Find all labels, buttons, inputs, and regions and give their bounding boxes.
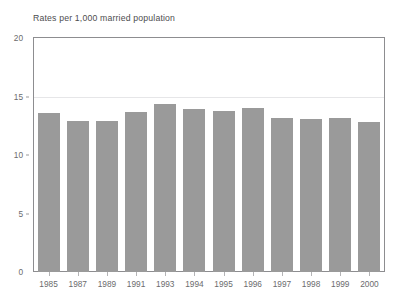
x-tick-label: 1998 (302, 279, 320, 289)
x-tick-label: 1994 (185, 279, 203, 289)
y-tick-mark (26, 155, 29, 156)
y-tick-label: 0 (18, 267, 23, 277)
x-tick-mark (78, 272, 79, 276)
y-tick-mark (26, 213, 29, 214)
bar-1994 (183, 109, 205, 272)
x-tick-mark (107, 272, 108, 276)
x-axis-ticks (34, 272, 384, 277)
x-tick-mark (49, 272, 50, 276)
y-axis: 05101520 (0, 37, 30, 272)
bars-layer (34, 38, 384, 272)
bar-1985 (38, 113, 60, 272)
bar-1987 (67, 121, 89, 272)
x-tick-label: 1989 (98, 279, 116, 289)
y-tick-label: 10 (14, 150, 23, 160)
x-tick-label: 1999 (331, 279, 349, 289)
x-tick-mark (253, 272, 254, 276)
x-tick-label: 1997 (273, 279, 291, 289)
x-tick-label: 2000 (360, 279, 378, 289)
x-tick-label: 1993 (156, 279, 174, 289)
x-tick-mark (165, 272, 166, 276)
x-tick-mark (369, 272, 370, 276)
bar-2000 (358, 122, 380, 272)
x-tick-mark (340, 272, 341, 276)
bar-1996 (242, 108, 264, 272)
x-tick-label: 1985 (39, 279, 57, 289)
x-tick-mark (136, 272, 137, 276)
x-tick-label: 1995 (214, 279, 232, 289)
x-tick-mark (311, 272, 312, 276)
x-tick-mark (224, 272, 225, 276)
chart-figure: Rates per 1,000 married population 05101… (0, 0, 398, 307)
chart-title: Rates per 1,000 married population (33, 13, 175, 23)
x-tick-label: 1987 (69, 279, 87, 289)
y-tick-label: 20 (14, 33, 23, 43)
top-crop-artifact (60, 0, 290, 6)
bar-1999 (329, 118, 351, 272)
bar-1989 (96, 121, 118, 272)
x-axis: 1985198719891991199319941995199619971998… (34, 279, 384, 293)
bar-1997 (271, 118, 293, 272)
x-tick-mark (282, 272, 283, 276)
y-tick-mark (26, 96, 29, 97)
bar-1993 (154, 104, 176, 272)
bar-1998 (300, 119, 322, 272)
bar-1991 (125, 112, 147, 272)
x-tick-label: 1991 (127, 279, 145, 289)
bar-1995 (213, 111, 235, 272)
y-tick-label: 5 (18, 209, 23, 219)
x-tick-mark (194, 272, 195, 276)
x-tick-label: 1996 (244, 279, 262, 289)
y-tick-label: 15 (14, 92, 23, 102)
